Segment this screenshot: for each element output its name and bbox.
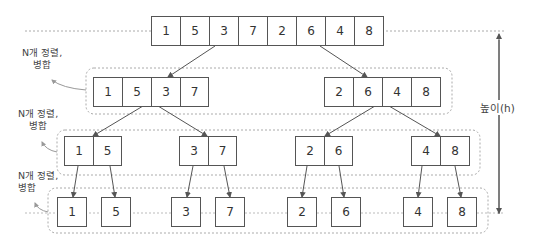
cell: 1 bbox=[57, 197, 87, 227]
cell: 3 bbox=[179, 136, 209, 166]
cell: 2 bbox=[295, 136, 325, 166]
cell: 3 bbox=[171, 197, 201, 227]
cell: 8 bbox=[354, 16, 384, 46]
cell: 5 bbox=[180, 16, 210, 46]
cell: 4 bbox=[403, 197, 433, 227]
cell: 4 bbox=[325, 16, 355, 46]
step-label-line2: 병합 bbox=[18, 120, 58, 132]
step-annotation-3: N개 정렬, 병합 bbox=[18, 170, 58, 194]
merge-sort-diagram: 1 5 3 7 2 6 4 8 1 5 3 7 2 6 4 8 1 5 3 7 … bbox=[0, 0, 535, 248]
step-label-line1: N개 정렬, bbox=[18, 108, 58, 120]
step-label-line1: N개 정렬, bbox=[22, 47, 62, 59]
cell: 5 bbox=[93, 136, 122, 166]
cell: 2 bbox=[287, 197, 317, 227]
cell: 3 bbox=[151, 77, 181, 107]
cell: 4 bbox=[382, 77, 412, 107]
step-label-line2: 병합 bbox=[22, 59, 62, 71]
cell: 4 bbox=[411, 136, 441, 166]
cell: 7 bbox=[238, 16, 268, 46]
cell: 6 bbox=[296, 16, 326, 46]
step-annotation-1: N개 정렬, 병합 bbox=[22, 47, 62, 71]
cell: 1 bbox=[151, 16, 181, 46]
cell: 6 bbox=[324, 136, 353, 166]
step-annotation-2: N개 정렬, 병합 bbox=[18, 108, 58, 132]
cell: 1 bbox=[64, 136, 94, 166]
cell: 8 bbox=[440, 136, 470, 166]
cell: 1 bbox=[93, 77, 123, 107]
cell: 7 bbox=[208, 136, 237, 166]
cell: 8 bbox=[411, 77, 441, 107]
cell: 2 bbox=[267, 16, 297, 46]
cell: 2 bbox=[324, 77, 354, 107]
step-label-line1: N개 정렬, bbox=[18, 170, 58, 182]
step-label-line2: 병합 bbox=[18, 182, 58, 194]
cell: 5 bbox=[101, 197, 131, 227]
height-label: 높이(h) bbox=[480, 100, 515, 115]
cell: 6 bbox=[331, 197, 361, 227]
cell: 6 bbox=[353, 77, 383, 107]
cell: 5 bbox=[122, 77, 152, 107]
cell: 7 bbox=[215, 197, 245, 227]
cell: 7 bbox=[180, 77, 209, 107]
cell: 8 bbox=[447, 197, 477, 227]
cell: 3 bbox=[209, 16, 239, 46]
